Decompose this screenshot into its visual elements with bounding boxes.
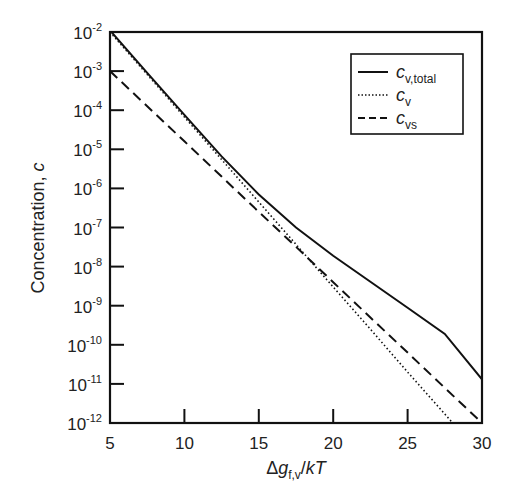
concentration-chart: 51015202530 10-210-310-410-510-610-710-8… [0, 0, 515, 496]
y-tick-label: 10-9 [73, 295, 102, 317]
y-tick-label: 10-6 [73, 177, 102, 199]
y-tick-label: 10-11 [68, 373, 102, 395]
x-tick-label: 20 [324, 434, 343, 453]
x-tick-label: 30 [473, 434, 492, 453]
y-tick-label: 10-8 [73, 256, 102, 278]
y-tick-label: 10-5 [73, 138, 102, 160]
y-tick-label: 10-4 [73, 99, 102, 121]
y-tick-label: 10-2 [73, 21, 102, 43]
x-tick-label: 25 [398, 434, 417, 453]
y-tick-label: 10-10 [67, 334, 102, 356]
x-axis-label: Δgf,v/kT [266, 458, 328, 482]
x-tick-label: 10 [175, 434, 194, 453]
legend: cv,total cv cvs [351, 54, 463, 134]
x-tick-label: 5 [105, 434, 114, 453]
x-axis-ticks: 51015202530 [105, 409, 491, 453]
y-tick-label: 10-12 [67, 412, 102, 434]
x-tick-label: 15 [249, 434, 268, 453]
y-tick-label: 10-3 [73, 60, 102, 82]
y-axis-label: Concentration, c [28, 162, 48, 293]
y-axis-ticks: 10-210-310-410-510-610-710-810-910-1010-… [67, 21, 124, 434]
y-tick-label: 10-7 [73, 217, 102, 239]
